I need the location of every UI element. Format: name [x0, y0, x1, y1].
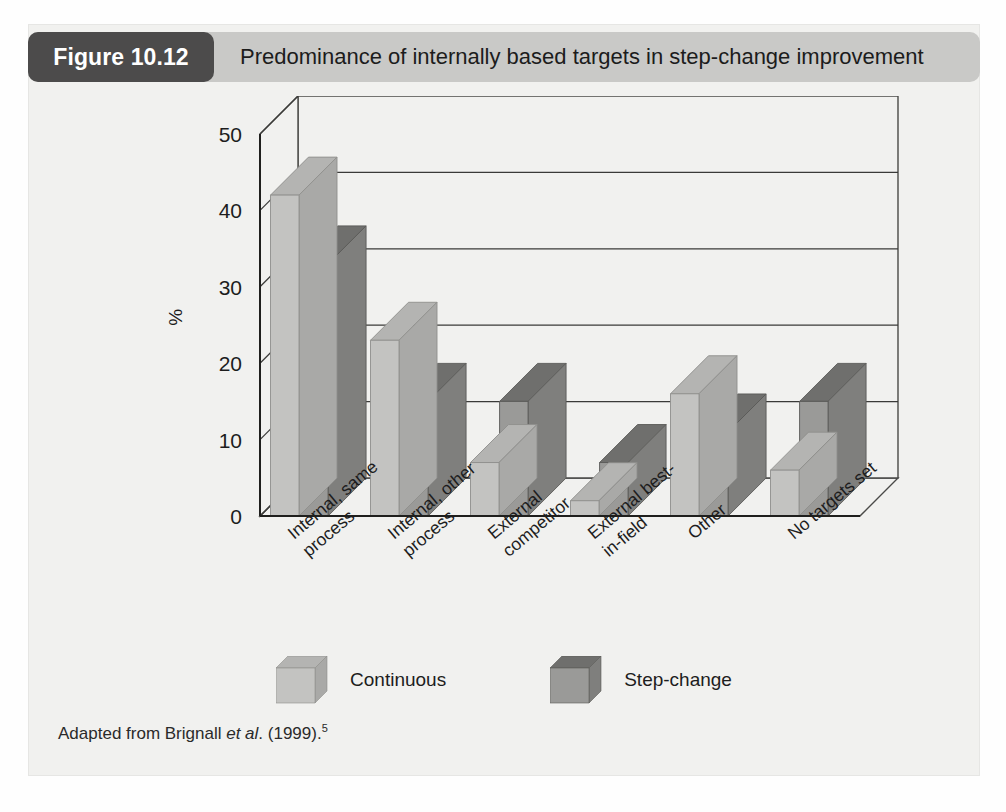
y-tick-label: 20 [219, 352, 242, 375]
y-tick-label: 30 [219, 276, 242, 299]
source-italic: et al [226, 724, 258, 743]
source-note: Adapted from Brignall et al. (1999).5 [58, 722, 328, 744]
legend-label-step-change: Step-change [624, 669, 732, 691]
y-tick-label: 0 [230, 505, 242, 528]
legend-item-step-change: Step-change [550, 656, 732, 704]
figure-page: Figure 10.12 Predominance of internally … [0, 0, 1006, 812]
y-tick-label: 40 [219, 199, 242, 222]
legend-item-continuous: Continuous [276, 656, 446, 704]
y-tick-label: 50 [219, 123, 242, 146]
bar [371, 302, 438, 516]
legend-label-continuous: Continuous [350, 669, 446, 691]
legend-swatch-step-change-icon [550, 656, 602, 704]
source-prefix: Adapted from Brignall [58, 724, 226, 743]
figure-caption-bar: Figure 10.12 Predominance of internally … [28, 32, 980, 82]
bar [271, 157, 338, 516]
legend-swatch-continuous-icon [276, 656, 328, 704]
figure-title: Predominance of internally based targets… [214, 44, 924, 70]
y-tick-label: 10 [219, 429, 242, 452]
chart-legend: Continuous Step-change [28, 648, 980, 712]
y-axis-title: % [165, 309, 186, 326]
bar-chart-3d: 01020304050%Internal, sameprocessInterna… [28, 96, 980, 656]
figure-number-tag: Figure 10.12 [28, 32, 214, 82]
source-superscript: 5 [322, 722, 328, 734]
chart-area: 01020304050%Internal, sameprocessInterna… [28, 96, 980, 656]
source-middle: . (1999). [258, 724, 321, 743]
